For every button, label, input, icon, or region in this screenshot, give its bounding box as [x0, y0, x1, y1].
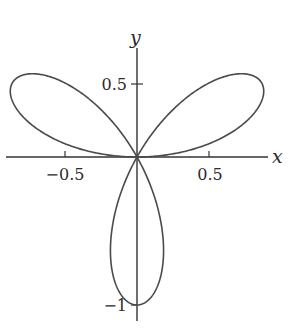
x-tick-label-0.5: 0.5 [197, 165, 222, 184]
rose-curve-plot: x y −0.5 0.5 0.5 −1 [0, 0, 303, 331]
x-axis-label: x [272, 145, 283, 167]
y-axis-label: y [129, 26, 141, 48]
x-tick-label-neg-0.5: −0.5 [46, 165, 85, 184]
y-tick-label-0.5: 0.5 [102, 75, 127, 94]
y-tick-label-neg-1: −1 [103, 296, 127, 315]
